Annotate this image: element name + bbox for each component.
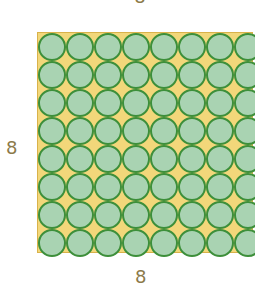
grid-cell <box>150 61 178 89</box>
circle-shape <box>178 117 206 145</box>
circle-shape <box>178 89 206 117</box>
grid-cell <box>94 229 122 257</box>
grid-cell <box>150 33 178 61</box>
circle-shape <box>38 173 66 201</box>
circle-shape <box>122 201 150 229</box>
grid-cell <box>122 145 150 173</box>
circle-shape <box>206 145 234 173</box>
grid-cell <box>94 173 122 201</box>
circle-shape <box>234 117 255 145</box>
circle-shape <box>234 145 255 173</box>
circle-shape <box>206 61 234 89</box>
circle-shape <box>234 33 255 61</box>
grid-cell <box>94 201 122 229</box>
circle-shape <box>94 33 122 61</box>
grid-cell <box>206 61 234 89</box>
circle-shape <box>122 33 150 61</box>
grid-cell <box>38 117 66 145</box>
grid-cell <box>234 173 255 201</box>
grid-cell <box>206 229 234 257</box>
circle-shape <box>234 173 255 201</box>
circle-shape <box>66 117 94 145</box>
circle-shape <box>94 145 122 173</box>
circle-shape <box>150 89 178 117</box>
circle-shape <box>150 145 178 173</box>
circle-shape <box>234 61 255 89</box>
grid-cell <box>122 173 150 201</box>
circle-shape <box>66 201 94 229</box>
grid-cell <box>94 33 122 61</box>
circle-shape <box>66 89 94 117</box>
circle-shape <box>38 61 66 89</box>
grid-cell <box>234 89 255 117</box>
circle-shape <box>178 229 206 257</box>
grid-cell <box>66 229 94 257</box>
grid-cell <box>178 201 206 229</box>
circle-shape <box>178 145 206 173</box>
circle-shape <box>38 145 66 173</box>
grid-cell <box>234 229 255 257</box>
circle-shape <box>122 173 150 201</box>
grid-cell <box>66 33 94 61</box>
circle-shape <box>122 89 150 117</box>
circle-shape <box>38 117 66 145</box>
circle-shape <box>66 173 94 201</box>
circle-shape <box>66 145 94 173</box>
circle-grid <box>37 32 253 253</box>
bottom-dimension-label: 8 <box>135 266 146 287</box>
grid-cell <box>122 201 150 229</box>
grid-cell <box>122 117 150 145</box>
grid-cell <box>66 201 94 229</box>
circle-shape <box>122 145 150 173</box>
circle-shape <box>178 173 206 201</box>
grid-cell <box>206 117 234 145</box>
grid-cell <box>234 145 255 173</box>
grid-cell <box>206 33 234 61</box>
grid-cell <box>206 89 234 117</box>
grid-cell <box>178 229 206 257</box>
circle-shape <box>66 229 94 257</box>
grid-cell <box>122 89 150 117</box>
grid-cell <box>94 117 122 145</box>
grid-cell <box>150 201 178 229</box>
grid-cell <box>66 173 94 201</box>
grid-cell <box>206 173 234 201</box>
circle-shape <box>38 89 66 117</box>
circle-shape <box>150 117 178 145</box>
circle-shape <box>94 229 122 257</box>
grid-cell <box>38 89 66 117</box>
grid-cell <box>66 117 94 145</box>
circle-shape <box>206 229 234 257</box>
grid-cell <box>66 61 94 89</box>
grid-cell <box>178 173 206 201</box>
grid-cell <box>38 145 66 173</box>
circle-shape <box>178 33 206 61</box>
circle-shape <box>150 61 178 89</box>
left-dimension-label: 8 <box>6 137 17 158</box>
circle-shape <box>150 173 178 201</box>
grid-cell <box>38 61 66 89</box>
circle-shape <box>234 89 255 117</box>
circle-shape <box>206 89 234 117</box>
circle-shape <box>206 201 234 229</box>
circle-shape <box>94 89 122 117</box>
circle-shape <box>122 61 150 89</box>
circle-shape <box>38 33 66 61</box>
grid-cell <box>38 229 66 257</box>
grid-cell <box>178 145 206 173</box>
circle-shape <box>150 229 178 257</box>
grid-cell <box>66 89 94 117</box>
circle-shape <box>94 117 122 145</box>
circle-shape <box>206 117 234 145</box>
top-dimension-label: 8 <box>130 0 150 7</box>
grid-cell <box>38 201 66 229</box>
grid-cell <box>234 61 255 89</box>
grid-cell <box>178 61 206 89</box>
grid-cell <box>66 145 94 173</box>
circle-shape <box>234 201 255 229</box>
grid-cell <box>234 33 255 61</box>
grid-cell <box>122 61 150 89</box>
grid-cell <box>206 201 234 229</box>
grid-cell <box>178 117 206 145</box>
grid-cell <box>122 229 150 257</box>
